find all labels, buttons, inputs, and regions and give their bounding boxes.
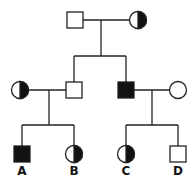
label-b: B	[64, 164, 84, 178]
child-c	[118, 146, 135, 163]
child-b	[66, 146, 83, 163]
gen2-left-spouse	[12, 82, 29, 99]
label-d: D	[168, 164, 188, 178]
label-a: A	[12, 164, 32, 178]
gen2-son	[66, 82, 82, 98]
pedigree-chart	[0, 0, 196, 181]
gen2-right-spouse	[170, 82, 187, 99]
gen1-mother	[130, 12, 147, 29]
child-d	[170, 146, 186, 162]
gen1-father	[67, 12, 83, 28]
label-c: C	[116, 164, 136, 178]
gen2-affected-son	[118, 82, 134, 98]
child-a	[14, 146, 30, 162]
